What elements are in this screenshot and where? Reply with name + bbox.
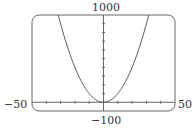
x-min-label: −50	[4, 99, 27, 110]
axes	[32, 15, 175, 111]
y-min-label: −100	[91, 115, 121, 126]
x-max-label: 50	[178, 99, 192, 110]
y-max-label: 1000	[92, 2, 120, 13]
